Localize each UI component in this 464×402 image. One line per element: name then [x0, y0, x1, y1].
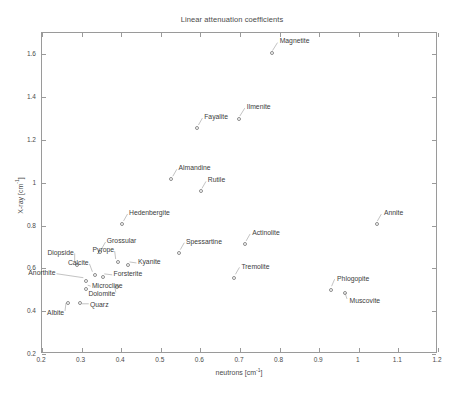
y-tick-label: 1.2 — [8, 136, 36, 143]
x-tick-label: 0.4 — [116, 356, 125, 363]
y-tick-label: 1.4 — [8, 93, 36, 100]
y-tick-label: 1.6 — [8, 50, 36, 57]
data-point-labels: MagnetiteIlmeniteFayaliteAlmandineRutile… — [42, 33, 436, 352]
x-tick-label: 0.9 — [314, 356, 323, 363]
data-point-label: Quarz — [90, 302, 109, 309]
data-point-label: Actinolite — [252, 230, 280, 237]
data-point-label: Phlogopite — [337, 276, 369, 283]
x-axis-label-tail: ] — [261, 369, 263, 376]
x-tick — [438, 33, 439, 37]
x-tick-label: 1.1 — [393, 356, 402, 363]
data-point-label: Microcline — [92, 283, 123, 290]
data-point-label: Almandine — [178, 165, 210, 172]
chart-figure: Linear attenuation coefficients neutrons… — [0, 0, 464, 402]
x-axis-label: neutrons [cm-1] — [41, 369, 437, 376]
x-axis-label-text: neutrons [cm — [216, 369, 256, 376]
y-tick-label: 0.2 — [8, 350, 36, 357]
data-point-label: Rutile — [208, 177, 225, 184]
x-tick-label: 0.8 — [274, 356, 283, 363]
x-tick-label: 0.3 — [76, 356, 85, 363]
plot-area: MagnetiteIlmeniteFayaliteAlmandineRutile… — [41, 32, 437, 353]
data-point-label: Diopside — [47, 250, 73, 257]
chart-title: Linear attenuation coefficients — [0, 15, 464, 24]
data-point-label: Hedenbergite — [129, 210, 170, 217]
x-tick-label: 0.2 — [36, 356, 45, 363]
y-axis-label-text: X-ray [cm — [17, 184, 24, 214]
data-point-label: Ilmenite — [247, 104, 271, 111]
data-point-label: Anorthite — [28, 270, 55, 277]
y-tick-label: 0.8 — [8, 221, 36, 228]
data-point-label: Calcite — [68, 260, 89, 267]
x-tick — [438, 348, 439, 352]
data-point-label: Albite — [47, 310, 64, 317]
data-point-label: Annite — [384, 210, 403, 217]
y-tick-label: 0.6 — [8, 264, 36, 271]
data-point-label: Pyrope — [92, 247, 114, 254]
data-point-label: Muscovite — [350, 298, 381, 305]
y-axis-label: X-ray [cm-1] — [17, 136, 24, 256]
x-tick-label: 0.6 — [195, 356, 204, 363]
x-tick-label: 1.2 — [432, 356, 441, 363]
y-tick-label: 1 — [8, 178, 36, 185]
data-point-label: Fayalite — [204, 114, 228, 121]
x-tick-label: 0.7 — [234, 356, 243, 363]
data-point-label: Grossular — [107, 238, 136, 245]
x-tick-label: 0.5 — [155, 356, 164, 363]
data-point-label: Magnetite — [280, 38, 310, 45]
data-point-label: Forsterite — [114, 271, 143, 278]
data-point-label: Tremolite — [241, 264, 269, 271]
y-tick — [42, 354, 46, 355]
y-tick-label: 0.4 — [8, 307, 36, 314]
x-tick-label: 1 — [356, 356, 360, 363]
data-point-label: Kyanite — [138, 259, 161, 266]
data-point-label: Dolomite — [88, 291, 115, 298]
data-point-label: Spessartine — [186, 239, 222, 246]
y-tick — [432, 354, 436, 355]
